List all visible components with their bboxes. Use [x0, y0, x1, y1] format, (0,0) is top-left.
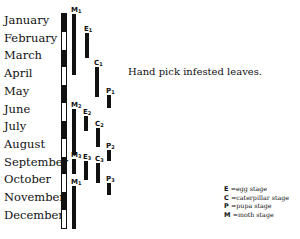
stage-bar	[107, 150, 111, 161]
month-label: August	[4, 137, 45, 151]
month-label: July	[4, 119, 26, 133]
month-label: February	[4, 31, 57, 45]
stage-label: M2	[71, 102, 81, 110]
stage-bar	[85, 33, 89, 58]
month-label: December	[4, 208, 64, 222]
legend: E =egg stageC =caterpillar stageP =pupa …	[224, 185, 289, 219]
stage-label: M1	[71, 179, 81, 187]
stage-bar	[72, 186, 76, 229]
month-label: September	[4, 155, 68, 169]
strip-segment	[62, 157, 66, 175]
stage-label: E3	[83, 154, 91, 162]
stage-bar	[72, 109, 76, 155]
stage-bar	[96, 128, 100, 147]
stage-label: C1	[94, 60, 103, 68]
legend-item: M =moth stage	[224, 211, 289, 220]
stage-bar	[84, 116, 88, 131]
month-label: April	[4, 66, 33, 80]
strip-segment	[62, 50, 66, 68]
stage-bar	[72, 14, 76, 75]
month-label: October	[4, 172, 51, 186]
stage-label: E2	[83, 109, 91, 117]
control-note: Hand pick infested leaves.	[128, 66, 262, 77]
month-label: January	[4, 13, 49, 27]
legend-item: P =pupa stage	[224, 202, 289, 211]
strip-segment	[62, 121, 66, 139]
stage-bar	[107, 183, 111, 195]
stage-label: P2	[106, 143, 115, 151]
legend-item: C =caterpillar stage	[224, 194, 289, 203]
stage-label: P1	[106, 88, 115, 96]
stage-bar	[95, 67, 99, 97]
strip-segment	[62, 85, 66, 103]
stage-bar	[84, 161, 88, 180]
strip-segment	[62, 192, 66, 210]
stage-label: M1	[71, 7, 81, 15]
stage-bar	[107, 95, 111, 108]
strip-segment	[62, 14, 66, 32]
stage-label: M3	[71, 152, 81, 160]
stage-bar	[72, 159, 76, 174]
stage-label: E1	[84, 26, 92, 34]
stage-label: P3	[106, 176, 115, 184]
legend-item: E =egg stage	[224, 185, 289, 194]
month-label: May	[4, 84, 29, 98]
stage-label: C2	[95, 121, 104, 129]
month-label: November	[4, 190, 65, 204]
stage-bar	[96, 163, 100, 183]
stage-label: C3	[95, 156, 104, 164]
month-label: March	[4, 48, 42, 62]
month-label: June	[4, 102, 30, 116]
month-strip	[61, 13, 67, 229]
